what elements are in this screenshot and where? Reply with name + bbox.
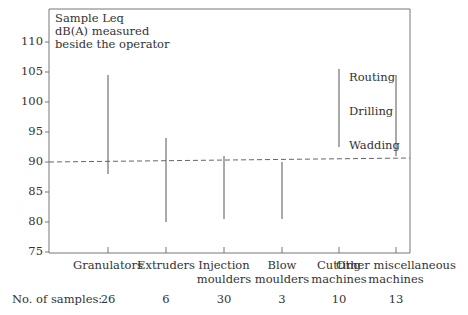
- sample-count: 13: [376, 292, 416, 306]
- y-tick-label: 105: [15, 64, 43, 78]
- sample-count: 10: [319, 292, 359, 306]
- sample-count: 30: [204, 292, 244, 306]
- reference-line-90db: [49, 158, 410, 162]
- y-tick-label: 85: [15, 184, 43, 198]
- sample-count: 6: [146, 292, 186, 306]
- annotation-wadding: Wadding: [349, 138, 400, 152]
- sample-count: 3: [262, 292, 302, 306]
- y-tick-label: 80: [15, 214, 43, 228]
- y-tick-label: 110: [15, 34, 43, 48]
- y-tick-label: 95: [15, 124, 43, 138]
- y-axis-label-line-3: beside the operator: [55, 38, 170, 51]
- x-category-label: Other miscellaneousmachines: [336, 258, 456, 286]
- y-tick-label: 75: [15, 244, 43, 258]
- y-tick-label: 100: [15, 94, 43, 108]
- sample-count: 26: [88, 292, 128, 306]
- y-tick-label: 90: [15, 154, 43, 168]
- annotation-drilling: Drilling: [349, 104, 393, 118]
- y-axis-label: Sample Leq dB(A) measured beside the ope…: [55, 12, 170, 51]
- annotation-routing: Routing: [349, 70, 395, 84]
